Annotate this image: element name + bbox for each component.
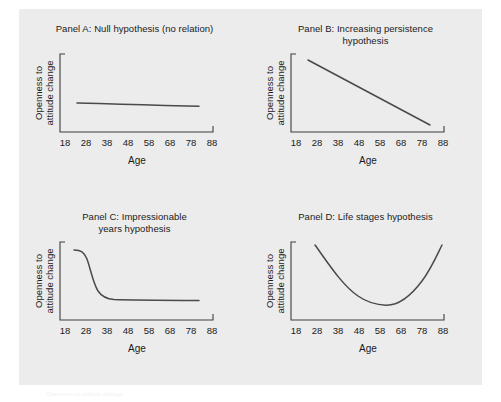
panel-a-plot: 18 28 38 48 58 68 78 88 Age Openness to … bbox=[19, 9, 250, 197]
panel-b-ylabel-line2: attitude change bbox=[275, 61, 286, 126]
panel-a-xtick-3: 48 bbox=[123, 137, 134, 148]
panel-b-xlabel: Age bbox=[359, 155, 377, 166]
panel-b-xtick-6: 78 bbox=[417, 137, 428, 148]
panel-b: Panel B: Increasing persistence hypothes… bbox=[250, 9, 481, 197]
panel-d-ylabel-line2: attitude change bbox=[275, 249, 286, 314]
panel-a-xtick-2: 38 bbox=[102, 137, 113, 148]
panel-a-axis-frame bbox=[60, 54, 213, 132]
panel-c-ylabel-line2: attitude change bbox=[44, 249, 55, 314]
panel-a-xlabel: Age bbox=[128, 155, 146, 166]
panel-c-xtick-1: 28 bbox=[81, 325, 92, 336]
panel-d-xtick-4: 58 bbox=[375, 325, 386, 336]
panel-c-plot: 18 28 38 48 58 68 78 88 Age Openness to … bbox=[19, 197, 250, 385]
panel-d-xtick-7: 88 bbox=[438, 325, 449, 336]
panel-c-xtick-3: 48 bbox=[123, 325, 134, 336]
panel-c-data-line bbox=[74, 250, 199, 301]
panel-b-plot: 18 28 38 48 58 68 78 88 Age Openness to … bbox=[250, 9, 481, 197]
panel-d-plot: 18 28 38 48 58 68 78 88 Age Openness to … bbox=[250, 197, 481, 385]
panel-d-ylabel-line1: Openness to bbox=[264, 254, 275, 308]
panel-d-xtick-6: 78 bbox=[417, 325, 428, 336]
panel-a-xtick-0: 18 bbox=[60, 137, 71, 148]
figure-root: Panel A: Null hypothesis (no relation) 1… bbox=[0, 0, 501, 402]
panel-c-xtick-2: 38 bbox=[102, 325, 113, 336]
panel-a-xtick-1: 28 bbox=[81, 137, 92, 148]
panel-c-xtick-4: 58 bbox=[144, 325, 155, 336]
panel-b-xtick-7: 88 bbox=[438, 137, 449, 148]
panel-a-xtick-7: 88 bbox=[207, 137, 218, 148]
panel-a-xtick-4: 58 bbox=[144, 137, 155, 148]
panel-a-ylabel-line1: Openness to bbox=[33, 66, 44, 120]
panel-b-xtick-4: 58 bbox=[375, 137, 386, 148]
panel-b-xtick-1: 28 bbox=[312, 137, 323, 148]
panel-b-xtick-2: 38 bbox=[333, 137, 344, 148]
clipped-caption-fragment: Openness to attitude change bbox=[46, 391, 206, 400]
panel-d-data-line bbox=[315, 245, 442, 305]
panel-d-axis-frame bbox=[291, 242, 444, 320]
panel-d-xtick-5: 68 bbox=[396, 325, 407, 336]
panel-d-xtick-2: 38 bbox=[333, 325, 344, 336]
panel-c-xtick-5: 68 bbox=[165, 325, 176, 336]
panel-a-xtick-6: 78 bbox=[186, 137, 197, 148]
panel-a-data-line bbox=[77, 103, 199, 106]
panel-c-ylabel-line1: Openness to bbox=[33, 254, 44, 308]
panel-c-xtick-6: 78 bbox=[186, 325, 197, 336]
panel-b-xtick-3: 48 bbox=[354, 137, 365, 148]
panel-d-xtick-3: 48 bbox=[354, 325, 365, 336]
panel-d-xlabel: Age bbox=[359, 343, 377, 354]
panel-a: Panel A: Null hypothesis (no relation) 1… bbox=[19, 9, 250, 197]
panel-a-xtick-5: 68 bbox=[165, 137, 176, 148]
panel-b-xtick-0: 18 bbox=[291, 137, 302, 148]
panel-d-xtick-0: 18 bbox=[291, 325, 302, 336]
panel-b-data-line bbox=[308, 60, 430, 125]
panel-c: Panel C: Impressionable years hypothesis… bbox=[19, 197, 250, 385]
panel-d: Panel D: Life stages hypothesis 18 28 38… bbox=[250, 197, 481, 385]
panel-a-ylabel-line2: attitude change bbox=[44, 61, 55, 126]
panel-c-xtick-0: 18 bbox=[60, 325, 71, 336]
panel-c-xlabel: Age bbox=[128, 343, 146, 354]
panel-c-xtick-7: 88 bbox=[207, 325, 218, 336]
panel-b-ylabel-line1: Openness to bbox=[264, 66, 275, 120]
panel-d-xtick-1: 28 bbox=[312, 325, 323, 336]
figure-background-panel: Panel A: Null hypothesis (no relation) 1… bbox=[19, 9, 482, 385]
panel-b-xtick-5: 68 bbox=[396, 137, 407, 148]
